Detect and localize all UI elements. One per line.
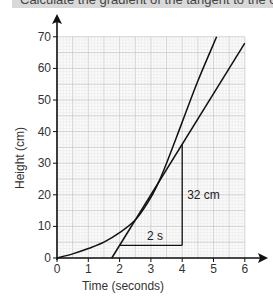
- y-tick-label: 40: [38, 125, 52, 139]
- y-tick-label: 30: [38, 156, 52, 170]
- y-tick-label: 70: [38, 30, 52, 44]
- x-tick-label: 5: [210, 262, 217, 276]
- rise-label: 32 cm: [187, 188, 220, 202]
- run-label: 2 s: [147, 229, 163, 243]
- x-tick-label: 0: [54, 262, 61, 276]
- x-tick-label: 1: [85, 262, 92, 276]
- y-tick-label: 20: [38, 188, 52, 202]
- y-tick-label: 50: [38, 93, 52, 107]
- y-tick-label: 0: [44, 251, 51, 265]
- x-axis-title: Time (seconds): [82, 279, 164, 293]
- height-time-chart: 0123456010203040506070 2 s32 cm Time (se…: [0, 0, 273, 303]
- y-tick-label: 10: [38, 219, 52, 233]
- x-tick-label: 4: [179, 262, 186, 276]
- x-tick-label: 6: [241, 262, 248, 276]
- y-axis-title: Height (cm): [13, 127, 27, 189]
- x-tick-label: 3: [148, 262, 155, 276]
- y-tick-label: 60: [38, 61, 52, 75]
- chart-grid: [57, 37, 245, 258]
- x-tick-label: 2: [116, 262, 123, 276]
